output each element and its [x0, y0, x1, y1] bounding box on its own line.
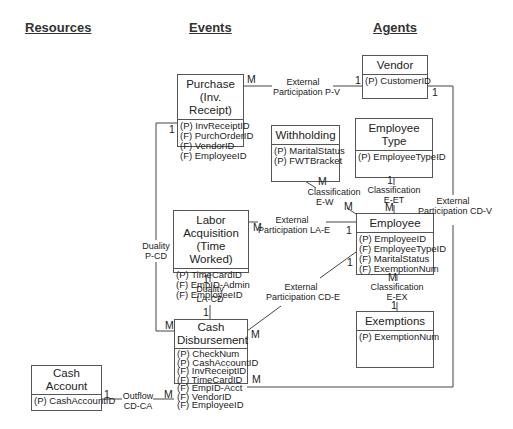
cardinality-cd-ca-cd: M: [164, 389, 173, 400]
label-line: External: [266, 282, 336, 292]
entity-exemptions[interactable]: Exemptions (P) ExemptionNum: [356, 311, 434, 368]
title-line: Purchase: [180, 78, 241, 91]
entity-title: Cash Account: [32, 366, 101, 395]
label-line: External: [418, 196, 488, 206]
label-line: Classification: [306, 187, 362, 197]
relationship-label-cd-ca: Outflow CD-CA: [120, 391, 156, 411]
cardinality-cd-v-vendor: 1: [432, 87, 438, 98]
label-line: Participation CD-E: [266, 292, 336, 302]
entity-title: Vendor: [363, 56, 427, 75]
cardinality-e-et-employee: M: [385, 202, 394, 213]
relationship-label-cd-v: External Participation CD-V: [418, 196, 488, 216]
label-line: E-ET: [366, 195, 422, 205]
relationship-label-e-ex: Classification E-EX: [369, 282, 425, 302]
entity-purchase[interactable]: Purchase (Inv. Receipt) (P) InvReceiptID…: [177, 74, 244, 147]
entity-title: Employee Type: [356, 119, 432, 151]
cardinality-cd-e-cd: M: [251, 329, 260, 340]
relationship-label-e-w: Classification E-W: [306, 187, 362, 207]
entity-vendor[interactable]: Vendor (P) CustomerID: [362, 55, 428, 99]
cardinality-p-v-purchase: M: [247, 74, 256, 85]
cardinality-p-v-vendor: 1: [355, 75, 361, 86]
relationship-label-la-e: External Participation LA-E: [258, 215, 326, 235]
entity-title: Labor Acquisition (Time Worked): [174, 211, 248, 269]
events-heading: Events: [189, 20, 232, 35]
entity-title: Purchase (Inv. Receipt): [178, 75, 243, 120]
agents-heading: Agents: [373, 20, 417, 35]
label-line: P-CD: [138, 251, 174, 261]
entity-attribute: (P) FWTBracket: [274, 156, 337, 166]
label-line: E-EX: [369, 292, 425, 302]
entity-title: Exemptions: [357, 312, 433, 331]
entity-attribute: (P) CashAccountID: [34, 396, 99, 406]
cardinality-la-cd-la: 1: [203, 274, 209, 285]
cardinality-la-e-employee: 1: [346, 225, 352, 236]
cardinality-cd-e-employee: 1: [347, 257, 353, 268]
cardinality-la-e-la: M: [253, 222, 262, 233]
entity-attribute: (P) EmployeeTypeID: [358, 152, 430, 162]
cardinality-e-w-withholding: M: [318, 176, 327, 187]
cardinality-cd-ca-account: 1: [104, 389, 110, 400]
cardinality-p-cd-purchase: 1: [169, 124, 175, 135]
title-line: Account: [34, 380, 99, 393]
title-line: (Inv. Receipt): [180, 91, 241, 117]
cardinality-e-w-employee: M: [344, 201, 353, 212]
entity-title: Cash Disbursement: [175, 320, 247, 349]
relationship-label-p-cd: Duality P-CD: [138, 241, 174, 261]
label-line: Participation P-V: [273, 87, 333, 97]
cardinality-e-ex-employee: M: [388, 272, 397, 283]
cardinality-la-cd-cd: 1: [203, 307, 209, 318]
relationship-label-la-cd: Duality LA-CD: [192, 284, 228, 304]
title-line: Cash: [34, 367, 99, 380]
label-line: Duality: [192, 284, 228, 294]
label-line: External: [258, 215, 326, 225]
label-line: Classification: [369, 282, 425, 292]
entity-labor-acquisition[interactable]: Labor Acquisition (Time Worked) (P) Time…: [173, 210, 249, 273]
title-line: Disbursement: [177, 334, 245, 347]
entity-title: Employee: [357, 214, 433, 233]
cardinality-e-et-type: 1: [387, 175, 393, 186]
label-line: LA-CD: [192, 294, 228, 304]
entity-attribute: (P) CustomerID: [365, 76, 425, 86]
title-line: Cash: [177, 321, 245, 334]
label-line: Participation LA-E: [258, 225, 326, 235]
cardinality-p-cd-cd: M: [165, 320, 174, 331]
entity-withholding[interactable]: Withholding (P) MaritalStatus (P) FWTBra…: [271, 125, 340, 182]
entity-employee-type[interactable]: Employee Type (P) EmployeeTypeID: [355, 118, 433, 178]
label-line: Participation CD-V: [418, 206, 488, 216]
cardinality-e-ex-exemptions: 1: [391, 300, 397, 311]
title-line: Labor Acquisition: [176, 214, 246, 240]
entity-attribute: (F) EmployeeID: [177, 401, 245, 410]
entity-employee[interactable]: Employee (P) EmployeeID (F) EmployeeType…: [356, 213, 434, 275]
label-line: Duality: [138, 241, 174, 251]
entity-title: Withholding: [272, 126, 339, 145]
label-line: E-W: [306, 197, 362, 207]
entity-attribute: (F) EmployeeID: [180, 151, 241, 161]
resources-heading: Resources: [25, 20, 91, 35]
relationship-label-p-v: External Participation P-V: [273, 77, 333, 97]
entity-cash-account[interactable]: Cash Account (P) CashAccountID: [31, 365, 102, 411]
label-line: Outflow: [120, 391, 156, 401]
title-line: (Time Worked): [176, 240, 246, 266]
relationship-label-e-et: Classification E-ET: [366, 185, 422, 205]
label-line: External: [273, 77, 333, 87]
entity-cash-disbursement[interactable]: Cash Disbursement (P) CheckNum (P) CashA…: [174, 319, 248, 384]
relationship-label-cd-e: External Participation CD-E: [266, 282, 336, 302]
entity-attribute: (P) ExemptionNum: [359, 332, 431, 342]
label-line: Classification: [366, 185, 422, 195]
label-line: CD-CA: [120, 401, 156, 411]
cardinality-cd-v-cd: M: [252, 374, 261, 385]
